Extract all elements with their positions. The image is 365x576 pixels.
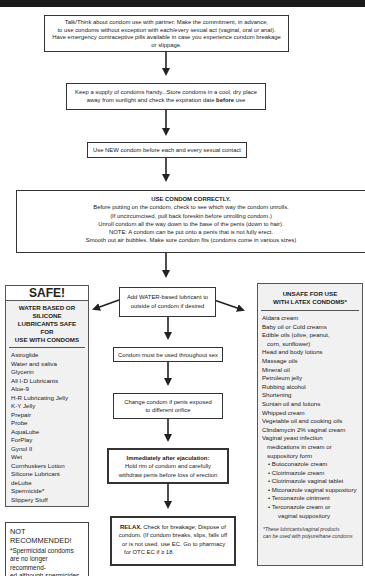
step-use-new-condom: Use NEW condom before each and every sex…	[87, 142, 247, 158]
step-relax: RELAX. Check for breakage; Dispose of co…	[110, 516, 236, 566]
step-ejaculation-line: Hold rim of condom and carefully	[109, 462, 227, 470]
not-recommended-title: NOT RECOMMENDED!	[10, 527, 84, 545]
safe-item: Water and saliva	[11, 360, 83, 369]
safe-item: Glycerin	[11, 368, 83, 377]
step-change-line: to different orifice	[114, 406, 222, 414]
unsafe-item: Clindamycin 2% vaginal cream	[262, 426, 358, 435]
safe-title: SAFE!	[6, 286, 88, 301]
unsafe-item: Petroleum jelly	[262, 374, 358, 383]
safe-item: Probe	[11, 419, 83, 428]
not-recommended-line: are no longer recommend-	[10, 555, 84, 572]
safe-item: AquaLube	[11, 428, 83, 437]
unsafe-item: Suntan oil and lotions	[262, 400, 358, 409]
step-supply-text: away from sunlight and check the expirat…	[87, 97, 216, 103]
unsafe-footnote: *These lubricants/vaginal products can b…	[258, 523, 362, 541]
step-use-throughout: Condom must be used throughout sex	[113, 347, 223, 362]
safe-item: Spermicide*	[11, 487, 83, 496]
unsafe-item: • Terconazole cream or	[262, 503, 358, 512]
not-recommended-line: *Spermicidal condoms	[10, 547, 84, 555]
step-relax-text: Check for breakage; Dispose of	[142, 524, 226, 530]
unsafe-item: vaginal suppository	[262, 512, 358, 521]
unsafe-item: Massage oils	[262, 357, 358, 366]
unsafe-item: • Butoconazole cream	[262, 460, 358, 469]
safe-item: Astroglide	[11, 351, 83, 360]
safe-item: ForPlay	[11, 436, 83, 445]
unsafe-item: Edible oils (olive, peanut,	[262, 331, 358, 340]
safe-item: Silicone Lubricant	[11, 470, 83, 479]
step-correctly-line: NOTE: A condom can be put onto a penis t…	[17, 228, 365, 236]
step-use-correctly: USE CONDOM CORRECTLY. Before putting on …	[16, 190, 365, 253]
step-lubricant-line: outside of condom if desired	[120, 302, 215, 311]
step-change-condom: Change condom if penis exposed to differ…	[113, 393, 223, 419]
safe-item: H-R Lubricating Jelly	[11, 394, 83, 403]
unsafe-header: UNSAFE FOR USE WITH LATEX CONDOMS*	[261, 284, 359, 311]
step-after-ejaculation: Immediately after ejaculation: Hold rim …	[107, 448, 229, 484]
step-keep-supply: Keep a supply of condoms handy...Store c…	[66, 83, 266, 110]
safe-lubricants-box: SAFE! WATER BASED OR SILICONE LUBRICANTS…	[5, 285, 89, 507]
safe-item: deLube	[11, 479, 83, 488]
safe-item: Aloe-9	[11, 385, 83, 394]
unsafe-item: Vaginal yeast infection	[262, 434, 358, 443]
safe-header: WATER BASED OR SILICONE LUBRICANTS SAFE …	[9, 301, 85, 348]
step-relax-line: for OTC EC if ≥ 18.	[118, 548, 228, 556]
unsafe-item: suppository form	[262, 452, 358, 461]
safe-header-line: USE WITH CONDOMS	[11, 336, 83, 344]
unsafe-list: Aldara cream Baby oil or Cold creams Edi…	[258, 311, 362, 523]
unsafe-item: Whipped cream	[262, 409, 358, 418]
safe-list: Astroglide Water and saliva Glycerin All…	[6, 348, 88, 507]
step-relax-line: condom. (If condom breaks, slips, falls …	[118, 531, 228, 539]
step-talk-think: Talk/Think about condom use with partner…	[44, 15, 289, 52]
step-talk-line: Talk/Think about condom use with partner…	[45, 19, 288, 27]
safe-header-line: WATER BASED OR	[11, 304, 83, 312]
step-supply-text: use	[234, 97, 245, 103]
unsafe-footnote-line: can be used with polyurethane condoms	[263, 533, 357, 540]
step-ejaculation-title: Immediately after ejaculation:	[109, 454, 227, 462]
step-lubricant-line: Add WATER-based lubricant to	[120, 293, 215, 302]
not-recommended-line: ed although spermicides	[10, 572, 84, 576]
unsafe-item: Baby oil or Cold creams	[262, 323, 358, 332]
unsafe-item: Head and body lotions	[262, 348, 358, 357]
step-ejaculation-line: withdraw penis before loss of erection	[109, 471, 227, 479]
safe-item: Cornhuskers Lotion	[11, 462, 83, 471]
step-correctly-line: Before putting on the condom, check to s…	[17, 203, 365, 211]
step-correctly-line: Smooth out air bubbles. Make sure condom…	[17, 236, 365, 244]
step-add-lubricant: Add WATER-based lubricant to outside of …	[119, 287, 216, 317]
step-supply-before-emphasis: before	[216, 97, 234, 103]
unsafe-item: medications in cream or	[262, 443, 358, 452]
step-relax-line: or is not used, use EC. Go to pharmacy	[118, 540, 228, 548]
unsafe-header-line: WITH LATEX CONDOMS*	[263, 298, 357, 306]
safe-item: K-Y Jelly	[11, 402, 83, 411]
unsafe-item: corn, sunflower)	[262, 340, 358, 349]
unsafe-item: Shortening	[262, 391, 358, 400]
step-correctly-title: USE CONDOM CORRECTLY.	[17, 195, 365, 203]
step-new-condom-text: Use NEW condom before each and every sex…	[88, 146, 246, 154]
unsafe-item: Aldara cream	[262, 314, 358, 323]
unsafe-header-line: UNSAFE FOR USE	[263, 290, 357, 298]
not-recommended-box: NOT RECOMMENDED! *Spermicidal condoms ar…	[5, 522, 89, 576]
step-talk-line: to use condoms without exception with ea…	[45, 27, 288, 35]
safe-item: Gynol II	[11, 445, 83, 454]
step-correctly-line: (If uncircumcised, pull back foreskin be…	[17, 212, 365, 220]
unsafe-item: • Clotrimazole vaginal tablet	[262, 477, 358, 486]
step-change-line: Change condom if penis exposed	[114, 398, 222, 406]
step-correctly-line: Unroll condom all the way down to the ba…	[17, 220, 365, 228]
unsafe-item: • Clotrimazole cream	[262, 469, 358, 478]
unsafe-products-box: UNSAFE FOR USE WITH LATEX CONDOMS* Aldar…	[257, 283, 363, 566]
unsafe-item: Mineral oil	[262, 366, 358, 375]
unsafe-item: Vegetable oil and cooking oils	[262, 417, 358, 426]
step-supply-line-1: Keep a supply of condoms handy...Store c…	[67, 88, 265, 96]
step-relax-line-1: RELAX. Check for breakage; Dispose of	[118, 523, 228, 531]
step-supply-line-2: away from sunlight and check the expirat…	[67, 96, 265, 104]
safe-item: All I-D Lubricants	[11, 377, 83, 386]
step-throughout-text: Condom must be used throughout sex	[114, 351, 222, 359]
safe-header-line: SILICONE	[11, 312, 83, 320]
safe-header-line: LUBRICANTS SAFE FOR	[11, 320, 83, 336]
safe-item: Wet	[11, 453, 83, 462]
unsafe-item: • Terconazole ointment	[262, 494, 358, 503]
unsafe-item: • Miconazole vaginal suppository	[262, 486, 358, 495]
step-talk-line: or slippage.	[45, 42, 288, 50]
safe-item: Prepair	[11, 411, 83, 420]
step-talk-line: Have emergency contraceptive pills avail…	[45, 34, 288, 42]
unsafe-item: Rubbing alcohol	[262, 383, 358, 392]
safe-item: Slippery Stuff	[11, 496, 83, 505]
